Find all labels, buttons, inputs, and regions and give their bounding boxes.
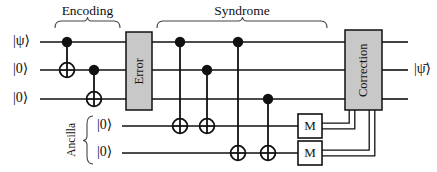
- classical-wire-a1: [322, 110, 375, 156]
- syndrome-brace: [157, 17, 327, 28]
- cnot-gate-encoding-2[interactable]: [87, 65, 102, 107]
- encoding-brace: [55, 17, 120, 28]
- measurement-label-a0: M: [298, 119, 322, 132]
- ancilla-brace: [83, 116, 93, 164]
- section-label-syndrome: Syndrome: [157, 4, 327, 18]
- correction-box-label: Correction: [357, 32, 370, 109]
- section-label-encoding: Encoding: [55, 4, 120, 18]
- ancilla-group-label: Ancilla: [66, 117, 78, 163]
- measurement-label-a1: M: [298, 146, 322, 159]
- input-label-a0: |0⟩: [97, 118, 112, 132]
- input-label-q0: |ψ⟩: [13, 34, 30, 48]
- input-label-a1: |0⟩: [97, 145, 112, 159]
- cnot-gate-syndrome-4[interactable]: [261, 94, 276, 161]
- classical-wire-a0: [322, 110, 355, 129]
- cnot-gate-syndrome-1[interactable]: [173, 37, 188, 134]
- error-box-label: Error: [133, 49, 146, 93]
- input-label-q2: |0⟩: [13, 91, 28, 105]
- output-label: |ψ̄⟩: [414, 62, 431, 76]
- quantum-circuit-figure: Encoding Syndrome |ψ⟩ |0⟩ |0⟩ |0⟩ |0⟩ An…: [0, 0, 437, 172]
- cnot-gate-encoding-1[interactable]: [60, 37, 75, 78]
- input-label-q1: |0⟩: [13, 62, 28, 76]
